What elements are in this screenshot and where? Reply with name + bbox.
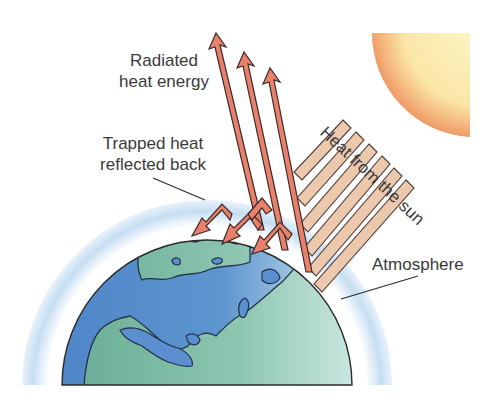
sun-icon	[372, 33, 470, 137]
greenhouse-diagram: Radiated heat energy Trapped heat reflec…	[0, 0, 494, 406]
trapped-heat-leader-line	[153, 178, 205, 200]
label-radiated-heat-energy: Radiated heat energy	[103, 50, 225, 92]
label-trapped-heat: Trapped heat reflected back	[88, 133, 218, 175]
label-atmosphere: Atmosphere	[372, 254, 464, 275]
